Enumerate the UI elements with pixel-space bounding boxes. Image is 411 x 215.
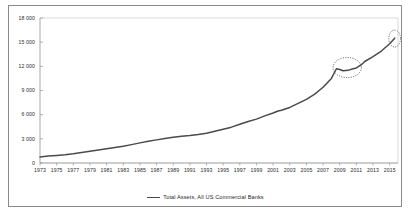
data-series-line <box>40 38 395 157</box>
y-axis-tick-label: 9 000 <box>5 87 35 93</box>
y-axis-tick-label: 12 000 <box>5 63 35 69</box>
legend-line-swatch <box>147 197 160 198</box>
y-axis-tick-label: 0 <box>5 160 35 166</box>
chart-legend: Total Assets, All US Commercial Banks <box>0 190 411 204</box>
plot-area: 03 0006 0009 00012 00015 00018 000197319… <box>0 0 411 215</box>
chart-figure: 03 0006 0009 00012 00015 00018 000197319… <box>0 0 411 215</box>
legend-label: Total Assets, All US Commercial Banks <box>163 194 263 200</box>
y-axis-tick-label: 3 000 <box>5 136 35 142</box>
y-axis-tick-label: 18 000 <box>5 15 35 21</box>
y-axis-tick-label: 15 000 <box>5 39 35 45</box>
line-chart-canvas <box>0 0 411 215</box>
x-axis-tick-label: 2015 <box>379 167 401 173</box>
y-axis-tick-label: 6 000 <box>5 111 35 117</box>
